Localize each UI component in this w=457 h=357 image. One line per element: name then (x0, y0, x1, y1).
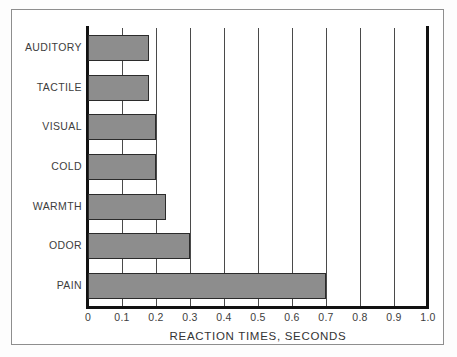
category-label: ODOR (10, 239, 82, 251)
category-label: VISUAL (10, 120, 82, 132)
x-tick-label: 0.1 (114, 311, 130, 323)
x-axis-tick-labels: 00.10.20.30.40.50.60.70.80.91.0 (88, 311, 428, 327)
figure-border: AUDITORYTACTILEVISUALCOLDWARMTHODORPAIN … (11, 9, 444, 345)
gridline (326, 28, 327, 306)
category-label: WARMTH (10, 200, 82, 212)
gridline (394, 28, 395, 306)
plot-area (88, 28, 428, 306)
x-tick-label: 0.4 (216, 311, 232, 323)
bar (88, 154, 156, 180)
x-tick-label: 0 (85, 311, 91, 323)
x-tick-label: 0.6 (284, 311, 300, 323)
x-tick-label: 0.3 (182, 311, 198, 323)
category-axis: AUDITORYTACTILEVISUALCOLDWARMTHODORPAIN (12, 28, 82, 306)
x-axis-line (86, 306, 429, 309)
plot-right-border-line (426, 26, 429, 308)
bar (88, 194, 166, 220)
bar (88, 273, 326, 299)
category-label: AUDITORY (10, 41, 82, 53)
x-tick-label: 0.8 (352, 311, 368, 323)
category-label: PAIN (10, 279, 82, 291)
figure-root: AUDITORYTACTILEVISUALCOLDWARMTHODORPAIN … (0, 0, 457, 357)
bar (88, 35, 149, 61)
bar (88, 233, 190, 259)
x-tick-label: 1.0 (420, 311, 436, 323)
gridline (224, 28, 225, 306)
x-tick-label: 0.9 (386, 311, 402, 323)
x-axis-title: REACTION TIMES, SECONDS (88, 330, 428, 342)
x-tick-label: 0.5 (250, 311, 266, 323)
gridline (360, 28, 361, 306)
bar (88, 75, 149, 101)
gridline (190, 28, 191, 306)
x-tick-label: 0.7 (318, 311, 334, 323)
gridline (258, 28, 259, 306)
gridline (156, 28, 157, 306)
bar (88, 114, 156, 140)
x-tick-label: 0.2 (148, 311, 164, 323)
category-label: COLD (10, 160, 82, 172)
gridline (292, 28, 293, 306)
category-label: TACTILE (10, 81, 82, 93)
